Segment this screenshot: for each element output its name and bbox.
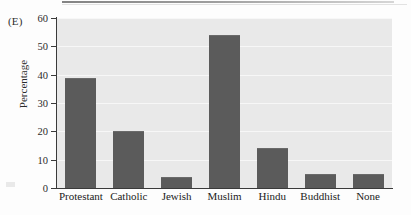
bar xyxy=(257,148,288,188)
bar xyxy=(305,174,336,188)
bar xyxy=(161,177,192,188)
bar xyxy=(353,174,384,188)
y-axis-tick-label: 0 xyxy=(24,183,48,194)
x-axis-tick-label: Protestant xyxy=(59,190,103,202)
scan-speckle xyxy=(6,182,15,187)
plot-area xyxy=(57,18,392,188)
x-axis-tick-label: Hindu xyxy=(259,190,287,202)
y-axis-tick-mark xyxy=(51,75,57,76)
bar xyxy=(113,131,144,188)
y-axis-tick-label: 10 xyxy=(24,154,48,165)
bar-chart-figure: (E) 0102030405060 Percentage ProtestantC… xyxy=(0,0,411,215)
x-axis-tick-label: Jewish xyxy=(162,190,192,202)
x-axis-tick-label: None xyxy=(356,190,380,202)
y-axis-tick-mark xyxy=(51,160,57,161)
x-axis-tick-label: Catholic xyxy=(110,190,147,202)
page-top-rule xyxy=(62,1,394,3)
y-axis-label: Percentage xyxy=(17,29,29,139)
x-axis-tick-label: Buddhist xyxy=(300,190,340,202)
x-axis-tick-label: Muslim xyxy=(207,190,241,202)
y-axis-tick-mark xyxy=(51,18,57,19)
y-axis-tick-mark xyxy=(51,131,57,132)
bar xyxy=(65,78,96,189)
y-axis-tick-label: 60 xyxy=(24,13,48,24)
page-top-rule-secondary xyxy=(62,4,407,5)
gridline xyxy=(57,18,392,19)
x-axis-tick-labels: ProtestantCatholicJewishMuslimHinduBuddh… xyxy=(57,190,392,212)
y-axis-tick-mark xyxy=(51,46,57,47)
x-axis-line xyxy=(56,188,393,189)
y-axis-tick-mark xyxy=(51,188,57,189)
y-axis-tick-mark xyxy=(51,103,57,104)
bar xyxy=(209,35,240,188)
